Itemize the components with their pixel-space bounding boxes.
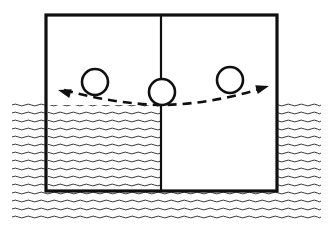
ball-left-position	[82, 69, 108, 95]
figure-root	[0, 0, 334, 234]
ball-right-position	[217, 67, 243, 93]
scene-drawing	[0, 0, 334, 234]
ball-center-position	[149, 79, 175, 105]
